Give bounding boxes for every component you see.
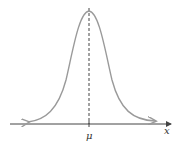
normal-curve-diagram: μ x [0,0,183,149]
bell-curve [28,11,155,122]
x-axis-label: x [164,125,170,136]
mean-label: μ [86,130,93,141]
